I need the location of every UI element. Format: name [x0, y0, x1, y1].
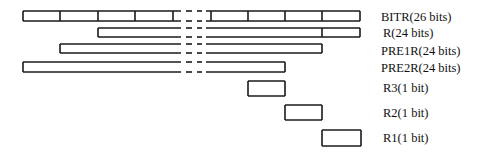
label-pre1r: PRE1R(24 bits) — [381, 45, 461, 58]
register-pre2r — [23, 62, 285, 72]
register-r1 — [322, 130, 361, 146]
register-r — [98, 28, 360, 37]
label-r3: R3(1 bit) — [383, 82, 428, 95]
label-r1: R1(1 bit) — [383, 132, 428, 145]
register-shapes — [23, 11, 361, 146]
register-r3 — [248, 81, 285, 96]
label-r: R(24 bits) — [383, 27, 433, 40]
register-r2 — [285, 105, 322, 120]
register-pre1r — [60, 44, 322, 53]
label-bitr: BITR(26 bits) — [381, 11, 451, 24]
label-r2: R2(1 bit) — [383, 107, 428, 120]
label-pre2r: PRE2R(24 bits) — [381, 62, 461, 75]
register-bitr — [23, 11, 360, 21]
